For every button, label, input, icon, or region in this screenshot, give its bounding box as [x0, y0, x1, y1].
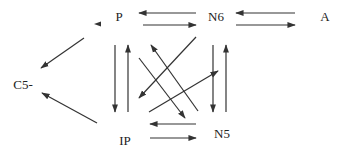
node-ip: IP: [119, 134, 131, 147]
node-a: A: [320, 10, 329, 23]
arrow-ip-to-c5: [42, 93, 97, 123]
reaction-diagram: P N6 A C5- IP N5: [0, 0, 342, 152]
arrow-p-to-c5: [41, 38, 84, 68]
node-c5: C5-: [13, 78, 33, 91]
diagram-arrows: [0, 0, 342, 152]
node-p: P: [115, 10, 122, 23]
small-arrowhead-icon: [94, 22, 101, 27]
node-n6: N6: [208, 10, 224, 23]
arrow-p-to-n5: [139, 58, 185, 118]
node-n5: N5: [214, 127, 230, 140]
